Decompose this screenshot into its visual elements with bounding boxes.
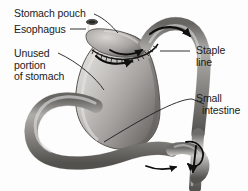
label-unused-portion-of-stomach: Unused portion of stomach xyxy=(14,48,64,83)
arrow-lower-bowel xyxy=(146,166,176,169)
jejunojejunal-anastomosis xyxy=(172,145,203,178)
label-staple-line2: line xyxy=(196,57,225,69)
label-small-intestine: Small intestine xyxy=(196,93,240,116)
label-esophagus: Esophagus xyxy=(14,24,66,36)
label-unused-line1: Unused xyxy=(14,47,50,59)
label-staple-line1: Staple xyxy=(196,44,225,56)
label-small-intestine-line2: intestine xyxy=(196,105,240,117)
label-small-intestine-line1: Small xyxy=(196,92,222,104)
label-unused-line3: of stomach xyxy=(14,71,64,83)
gastric-bypass-figure: Stomach pouch Esophagus Unused portion o… xyxy=(0,0,248,191)
label-stomach-pouch: Stomach pouch xyxy=(14,8,86,20)
label-staple-line: Staple line xyxy=(196,45,225,68)
